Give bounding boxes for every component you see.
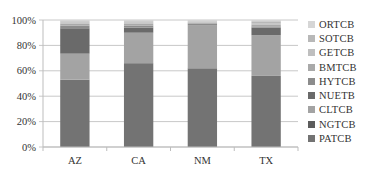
bar-nm [188, 20, 217, 147]
legend-item-bmtcb: BMTCB [308, 60, 357, 74]
bar-segment-ortcb [188, 20, 217, 21]
legend-swatch [308, 135, 315, 142]
legend-item-ngtcb: NGTCB [308, 117, 357, 131]
legend-swatch [308, 92, 315, 99]
bar-segment-nuetb [60, 28, 89, 53]
legend-label: PATCB [319, 133, 352, 144]
bar-segment-bmtcb [60, 24, 89, 26]
x-axis: AZCANMTX [43, 147, 298, 166]
bar-segment-patcb [124, 63, 153, 147]
legend-swatch [308, 64, 315, 71]
legend-label: HYTCB [319, 76, 356, 87]
bar-segment-patcb [251, 76, 280, 147]
bar-segment-bmtcb [251, 24, 280, 26]
bar-segment-cltcb [124, 33, 153, 63]
bar-segment-sotcb [251, 21, 280, 23]
bar-segment-getcb [124, 23, 153, 24]
y-tick-label: 0% [22, 142, 36, 153]
legend-item-getcb: GETCB [308, 46, 357, 60]
bar-segment-getcb [60, 23, 89, 24]
y-tick-label: 100% [12, 15, 37, 26]
bar-segment-hytcb [188, 24, 217, 25]
legend-label: CLTCB [319, 104, 353, 115]
legend-item-sotcb: SOTCB [308, 31, 357, 45]
x-tick-label: AZ [68, 155, 82, 166]
legend-swatch [308, 106, 315, 113]
legend-item-patcb: PATCB [308, 131, 357, 145]
bar-segment-ortcb [124, 20, 153, 21]
y-tick-label: 40% [17, 91, 37, 102]
bar-segment-cltcb [251, 35, 280, 76]
legend-swatch [308, 35, 315, 42]
bar-az [60, 20, 89, 147]
bar-segment-ortcb [60, 20, 89, 21]
legend-label: GETCB [319, 47, 354, 58]
legend-item-hytcb: HYTCB [308, 74, 357, 88]
bar-segment-hytcb [124, 26, 153, 28]
legend-label: NGTCB [319, 119, 356, 130]
legend-swatch [308, 49, 315, 56]
legend-swatch [308, 21, 315, 28]
bar-segment-cltcb [188, 25, 217, 68]
legend-label: ORTCB [319, 19, 354, 30]
y-tick-label: 80% [17, 40, 37, 51]
bars [60, 20, 281, 147]
x-tick-label: NM [194, 155, 212, 166]
bar-segment-bmtcb [124, 24, 153, 26]
bar-segment-patcb [188, 68, 217, 147]
legend-swatch [308, 121, 315, 128]
bar-ca [124, 20, 153, 147]
bar-segment-patcb [60, 80, 89, 147]
y-tick-label: 60% [17, 65, 37, 76]
x-tick-label: TX [259, 155, 273, 166]
y-tick-label: 20% [17, 116, 37, 127]
bar-tx [251, 20, 280, 147]
y-axis: 0%20%40%60%80%100% [12, 15, 44, 153]
x-tick-label: CA [131, 155, 146, 166]
bar-segment-sotcb [124, 21, 153, 22]
legend-item-cltcb: CLTCB [308, 103, 357, 117]
legend-label: NUETB [319, 90, 355, 101]
bar-segment-ortcb [251, 20, 280, 21]
bar-segment-nuetb [251, 28, 280, 36]
bar-segment-getcb [188, 22, 217, 23]
bar-segment-bmtcb [188, 23, 217, 24]
bar-segment-sotcb [60, 21, 89, 22]
bar-segment-hytcb [251, 26, 280, 27]
bar-segment-getcb [251, 23, 280, 24]
bar-segment-hytcb [60, 26, 89, 29]
legend-label: SOTCB [319, 33, 354, 44]
legend-swatch [308, 78, 315, 85]
bar-segment-cltcb [60, 54, 89, 80]
legend: ORTCBSOTCBGETCBBMTCBHYTCBNUETBCLTCBNGTCB… [308, 17, 357, 146]
legend-item-ortcb: ORTCB [308, 17, 357, 31]
legend-item-nuetb: NUETB [308, 88, 357, 102]
bar-segment-sotcb [188, 21, 217, 22]
legend-label: BMTCB [319, 62, 357, 73]
bar-segment-nuetb [124, 28, 153, 33]
